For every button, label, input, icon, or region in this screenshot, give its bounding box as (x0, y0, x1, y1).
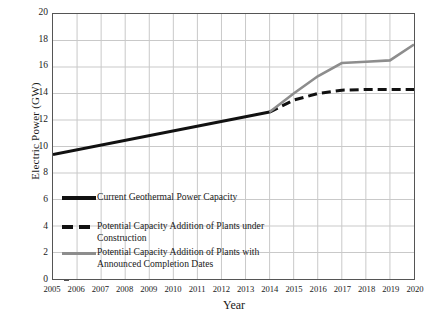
legend-item-label: Current Geothermal Power Capacity (96, 191, 237, 203)
y-tick-label: 18 (22, 35, 48, 45)
y-tick-label: 4 (22, 222, 48, 232)
y-tick-mark (64, 280, 69, 281)
dashed-black-line-icon (62, 221, 96, 233)
solid-black-line-icon (62, 192, 96, 204)
y-axis-tick-labels: 02468101214161820 (16, 13, 48, 280)
legend-item-label: Potential Capacity Addition of Plants un… (96, 220, 264, 243)
x-axis-tick-labels: 2005200620072008200920102011201220132014… (52, 285, 415, 299)
legend-item: Potential Capacity Addition of Plants wi… (62, 246, 259, 269)
legend-item: Current Geothermal Power Capacity (62, 191, 237, 204)
series-line-1 (270, 90, 414, 113)
y-tick-label: 12 (22, 115, 48, 125)
solid-gray-line-icon (62, 247, 96, 259)
legend-item-label: Potential Capacity Addition of Plants wi… (96, 246, 259, 269)
y-tick-label: 6 (22, 195, 48, 205)
y-tick-label: 2 (22, 249, 48, 259)
y-tick-label: 14 (22, 88, 48, 98)
y-tick-label: 20 (22, 8, 48, 18)
y-tick-label: 10 (22, 142, 48, 152)
x-tick-label: 2020 (395, 285, 428, 294)
legend-item: Potential Capacity Addition of Plants un… (62, 220, 264, 243)
series-line-0 (53, 112, 270, 154)
y-tick-label: 8 (22, 168, 48, 178)
chart-figure: Electric Power (GW) 02468101214161820 20… (0, 0, 428, 321)
y-tick-label: 16 (22, 62, 48, 72)
series-line-2 (270, 44, 414, 112)
x-axis-title: Year (52, 298, 416, 313)
